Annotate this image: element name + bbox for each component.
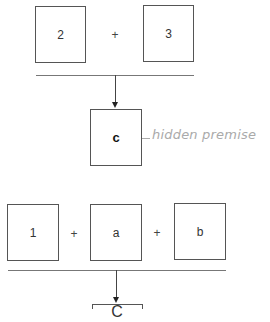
premise-box-a: a: [90, 204, 142, 261]
plus-operator: +: [153, 226, 160, 240]
premise-label: a: [113, 226, 120, 240]
premise-label: 1: [30, 226, 37, 240]
premise-label: b: [197, 225, 204, 239]
conclusion-box-c: c: [90, 109, 142, 166]
inference-connector: [116, 270, 117, 298]
premise-box-3: 3: [143, 5, 194, 62]
annotation-connector: [142, 138, 150, 139]
plus-operator: +: [111, 28, 118, 42]
arrow-down-icon: [112, 102, 118, 108]
premise-box-1: 1: [7, 204, 59, 261]
premise-box-b: b: [174, 203, 226, 260]
premise-label: 2: [57, 28, 64, 42]
conclusion-label: C: [111, 303, 123, 321]
inference-connector: [115, 75, 116, 103]
conclusion-label: c: [112, 130, 119, 145]
hidden-premise-annotation: hidden premise: [152, 127, 256, 142]
plus-operator: +: [70, 227, 77, 241]
premise-label: 3: [165, 27, 172, 41]
inference-line: [8, 270, 226, 271]
premise-box-2: 2: [35, 6, 86, 63]
